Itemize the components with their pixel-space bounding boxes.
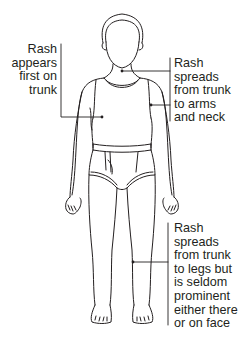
leader-arms-neck	[121, 58, 170, 121]
leader-legs	[132, 223, 168, 325]
annotation-line: and neck	[174, 111, 231, 125]
annotation-line: trunk	[11, 84, 57, 98]
annotation-arms-neck: Rash spreads from trunk to arms and neck	[174, 57, 231, 125]
annotation-line: is seldom	[174, 276, 238, 290]
arms	[66, 92, 179, 214]
annotation-legs: Rash spreads from trunk to legs but is s…	[174, 222, 238, 331]
annotation-line: to legs but	[174, 263, 238, 277]
feet	[91, 305, 153, 324]
annotation-line: first on	[11, 70, 57, 84]
torso	[72, 78, 172, 195]
annotation-line: from trunk	[174, 84, 231, 98]
legs	[89, 175, 156, 305]
annotation-line: Rash	[174, 57, 231, 71]
annotation-line: or on face	[174, 317, 238, 331]
annotation-line: Rash	[11, 43, 57, 57]
annotation-line: prominent	[174, 290, 238, 304]
leader-trunk	[61, 44, 103, 118]
briefs	[89, 144, 155, 190]
annotation-line: either there	[174, 304, 238, 318]
annotation-line: Rash	[174, 222, 238, 236]
annotation-line: spreads	[174, 236, 238, 250]
annotation-line: appears	[11, 57, 57, 71]
head	[102, 14, 143, 68]
annotation-line: to arms	[174, 98, 231, 112]
annotation-line: spreads	[174, 71, 231, 85]
annotation-line: from trunk	[174, 249, 238, 263]
annotation-trunk: Rash appears first on trunk	[11, 43, 57, 97]
